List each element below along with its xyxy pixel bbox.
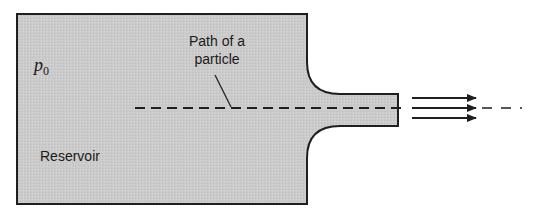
particle-path-label-line2: particle bbox=[170, 51, 264, 67]
particle-path-label-line1: Path of a bbox=[170, 33, 264, 49]
particle-path-label: Path of a particle bbox=[170, 33, 264, 67]
pressure-subscript: 0 bbox=[43, 64, 49, 78]
pressure-label: p0 bbox=[34, 57, 49, 79]
reservoir-nozzle-diagram bbox=[0, 0, 536, 218]
reservoir-label: Reservoir bbox=[40, 148, 100, 164]
pressure-symbol: p bbox=[34, 55, 43, 75]
